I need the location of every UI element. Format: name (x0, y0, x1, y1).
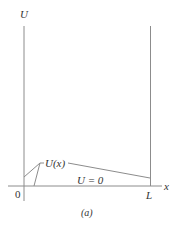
potential-well-diagram: U U(x) U = 0 x 0 L (a) (0, 0, 178, 227)
zero-region-label: U = 0 (77, 174, 104, 186)
potential-curve-left (24, 163, 40, 177)
figure-caption: (a) (81, 207, 93, 219)
diagram-canvas: U U(x) U = 0 x 0 L (a) (0, 0, 178, 227)
x-axis-label: x (163, 180, 169, 192)
right-wall-label: L (145, 189, 152, 201)
y-axis-label: U (20, 8, 29, 20)
label-leader-down (34, 163, 40, 186)
origin-label: 0 (15, 188, 21, 200)
potential-label: U(x) (45, 157, 65, 170)
